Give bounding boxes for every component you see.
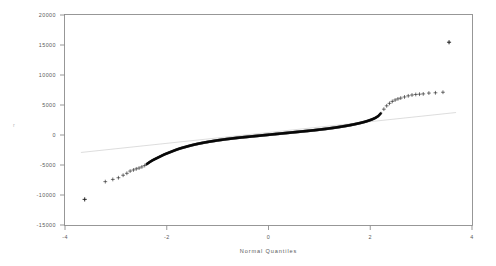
y-tick-label-15000: 15000 xyxy=(39,42,56,48)
qq-plot-canvas: 20000 15000 10000 5000 0 -5000 -10000 -1… xyxy=(0,0,496,266)
data-point-marker xyxy=(414,93,418,97)
x-tick-label-minus2: -2 xyxy=(164,234,170,240)
x-tick-label-0: 0 xyxy=(267,234,270,240)
data-point-marker xyxy=(125,171,129,175)
y-tick-label-minus5000: -5000 xyxy=(40,162,56,168)
data-point-marker xyxy=(128,169,132,173)
y-axis-ticks xyxy=(60,15,65,225)
y-tick-label-5000: 5000 xyxy=(42,102,56,108)
x-tick-label-minus4: -4 xyxy=(62,234,68,240)
data-point-marker xyxy=(382,107,386,111)
data-point-marker xyxy=(403,95,407,99)
y-tick-label-10000: 10000 xyxy=(39,72,56,78)
data-point-marker xyxy=(103,180,107,184)
qq-plot-figure: 20000 15000 10000 5000 0 -5000 -10000 -1… xyxy=(0,0,496,266)
y-tick-label-minus10000: -10000 xyxy=(37,192,57,198)
y-axis-tick-labels: 20000 15000 10000 5000 0 -5000 -10000 -1… xyxy=(37,12,57,228)
data-point-marker xyxy=(121,173,125,177)
x-tick-label-4: 4 xyxy=(470,234,473,240)
data-point-marker xyxy=(111,178,115,182)
x-axis-tick-labels: -4 -2 0 2 4 xyxy=(62,234,474,240)
data-point-marker xyxy=(399,96,403,100)
data-point-marker xyxy=(406,94,410,98)
data-point-marker xyxy=(388,101,392,105)
data-point-marker xyxy=(447,40,451,44)
reference-line xyxy=(81,113,456,153)
data-point-marker xyxy=(83,197,87,201)
x-tick-label-2: 2 xyxy=(369,234,372,240)
data-point-marker xyxy=(427,91,431,95)
data-point-marker xyxy=(418,92,422,96)
y-axis-title: r xyxy=(13,122,15,128)
y-tick-label-0: 0 xyxy=(53,132,56,138)
data-point-marker xyxy=(385,104,389,108)
data-point-marker xyxy=(441,90,445,94)
data-point-layer xyxy=(83,40,452,201)
x-axis-ticks xyxy=(65,226,472,231)
data-point-marker xyxy=(434,91,438,95)
y-tick-label-minus15000: -15000 xyxy=(37,222,57,228)
data-point-marker xyxy=(117,176,121,180)
x-axis-title: Normal Quantiles xyxy=(240,248,298,254)
data-point-marker xyxy=(421,92,425,96)
data-point-marker xyxy=(410,93,414,97)
y-tick-label-20000: 20000 xyxy=(39,12,56,18)
plot-frame xyxy=(65,15,473,226)
